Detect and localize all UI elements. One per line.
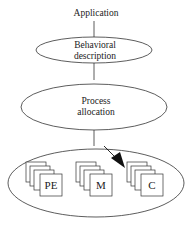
node-label-line1: Behavioral bbox=[74, 40, 116, 50]
diagram-canvas: Application Behavioral description Proce… bbox=[0, 0, 192, 229]
c-label: C bbox=[148, 179, 155, 191]
node-label-line1: Process bbox=[81, 96, 110, 106]
m-label: M bbox=[96, 179, 106, 191]
process-allocation-node: Process allocation bbox=[21, 84, 167, 130]
pe-label: PE bbox=[45, 179, 58, 191]
node-label-line2: description bbox=[74, 51, 116, 61]
application-label: Application bbox=[74, 8, 119, 18]
behavioral-description-node: Behavioral description bbox=[36, 37, 152, 63]
node-label-line2: allocation bbox=[77, 107, 115, 117]
